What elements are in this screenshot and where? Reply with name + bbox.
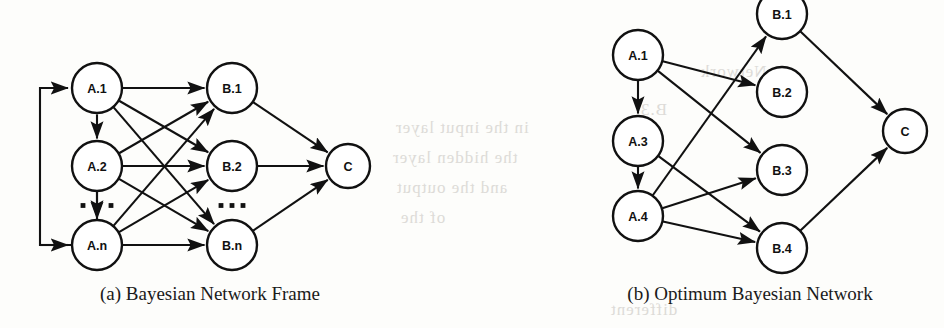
node-B.1: B.1 (757, 0, 807, 39)
edge-B4-to-C (800, 148, 887, 231)
panel-b-node-group: A.1A.3A.4B.1B.2B.3B.4C (613, 0, 927, 273)
node-label-B.1: B.1 (772, 8, 792, 22)
panel-a-caption: (a) Bayesian Network Frame (40, 283, 380, 305)
edge-A4-to-B3 (662, 178, 756, 208)
node-label-A.1: A.1 (628, 49, 648, 63)
node-C: C (883, 109, 927, 153)
node-A.4: A.4 (613, 191, 663, 241)
node-A.1: A.1 (613, 30, 663, 80)
node-B.2: B.2 (757, 67, 807, 117)
figure-page: in the input layerthe hidden layerand th… (0, 0, 944, 328)
node-label-B.3: B.3 (772, 164, 792, 178)
panel-b-caption: (b) Optimum Bayesian Network (556, 283, 944, 305)
panel-b-edge-group (638, 32, 887, 242)
node-label-B.2: B.2 (772, 86, 792, 100)
edge-A4-to-B4 (663, 222, 755, 243)
node-label-B.4: B.4 (772, 242, 792, 256)
edge-A4-to-B1 (653, 36, 766, 195)
node-label-A.3: A.3 (628, 135, 648, 149)
edge-A1-to-B2 (663, 61, 756, 85)
node-A.3: A.3 (613, 116, 663, 166)
node-B.4: B.4 (757, 223, 807, 273)
node-B.3: B.3 (757, 145, 807, 195)
node-label-C: C (900, 125, 909, 139)
edge-B1-to-C (800, 32, 887, 115)
panel-b-diagram: A.1A.3A.4B.1B.2B.3B.4C (0, 0, 944, 328)
node-label-A.4: A.4 (628, 210, 648, 224)
